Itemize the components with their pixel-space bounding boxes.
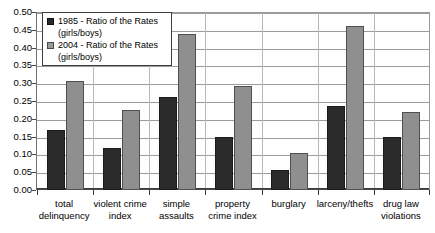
y-axis-tick-label: 0.10 [0,149,32,159]
bar [215,137,233,190]
bar [290,153,308,190]
legend-label-2004: 2004 - Ratio of the Rates [58,40,158,51]
bar-group [205,12,261,190]
y-axis-tick-label: 0.45 [0,25,32,35]
legend-label-1985: 1985 - Ratio of the Rates [58,16,158,27]
x-axis-category-label: violent crimeindex [92,198,148,221]
bar [66,81,84,190]
bar-group [262,12,318,190]
legend-item-1985: 1985 - Ratio of the Rates [47,16,167,27]
x-axis-ticks [37,190,430,196]
legend-sublabel-2004: (girls/boys) [58,52,167,63]
y-axis-tick-label: 0.50 [0,7,32,17]
y-axis-tick-label: 0.00 [0,185,32,195]
x-axis-category-label: totaldelinquency [36,198,92,221]
x-axis-category-label-line: simple [148,198,204,210]
x-axis-category-label-line: larceny/thefts [317,198,373,210]
bar [47,130,65,190]
y-axis-tick-label: 0.35 [0,60,32,70]
y-axis-tick-mark [32,190,36,191]
bar [271,170,289,190]
x-axis-tick-mark [205,190,206,195]
x-axis-category-label-line: total [36,198,92,210]
x-axis-category-label: simpleassaults [148,198,204,221]
bar [159,97,177,190]
bar [178,34,196,190]
bar [234,86,252,190]
bar-chart: 0.500.450.400.350.300.250.200.150.100.05… [0,0,435,233]
x-axis-tick-mark [262,190,263,195]
x-axis-category-label-line: index [92,210,148,222]
bar [346,26,364,190]
x-axis-category-label-line: burglary [261,198,317,210]
x-axis-category-label-line: delinquency [36,210,92,222]
bar-group [318,12,374,190]
x-axis-labels: totaldelinquencyviolent crimeindexsimple… [36,198,430,232]
x-axis-category-label-line: drug law [373,198,429,210]
x-axis-category-label: burglary [261,198,317,210]
chart-legend: 1985 - Ratio of the Rates (girls/boys) 2… [42,12,172,66]
y-axis-tick-label: 0.05 [0,167,32,177]
x-axis-tick-mark [93,190,94,195]
x-axis-category-label-line: violent crime [92,198,148,210]
legend-swatch-1985-icon [47,18,54,25]
x-axis-tick-mark [318,190,319,195]
x-axis-tick-mark [37,190,38,195]
bar [103,148,121,190]
legend-item-2004: 2004 - Ratio of the Rates [47,40,167,51]
x-axis-category-label-line: assaults [148,210,204,222]
y-axis-tick-label: 0.15 [0,132,32,142]
x-axis-category-label: propertycrime index [204,198,260,221]
y-axis-tick-label: 0.40 [0,43,32,53]
bar [327,106,345,190]
bar-group [374,12,430,190]
x-axis-category-label-line: violations [373,210,429,222]
x-axis-tick-mark [149,190,150,195]
y-axis-tick-label: 0.25 [0,96,32,106]
bar [122,110,140,190]
x-axis-category-label-line: property [204,198,260,210]
x-axis-category-label: drug lawviolations [373,198,429,221]
x-axis-tick-mark [374,190,375,195]
legend-sublabel-1985: (girls/boys) [58,28,167,39]
legend-swatch-2004-icon [47,42,54,49]
x-axis-category-label: larceny/thefts [317,198,373,210]
y-axis-tick-label: 0.20 [0,114,32,124]
bar [402,112,420,190]
bar [383,137,401,190]
x-axis-tick-mark [429,190,430,195]
y-axis-tick-label: 0.30 [0,78,32,88]
x-axis-category-label-line: crime index [204,210,260,222]
